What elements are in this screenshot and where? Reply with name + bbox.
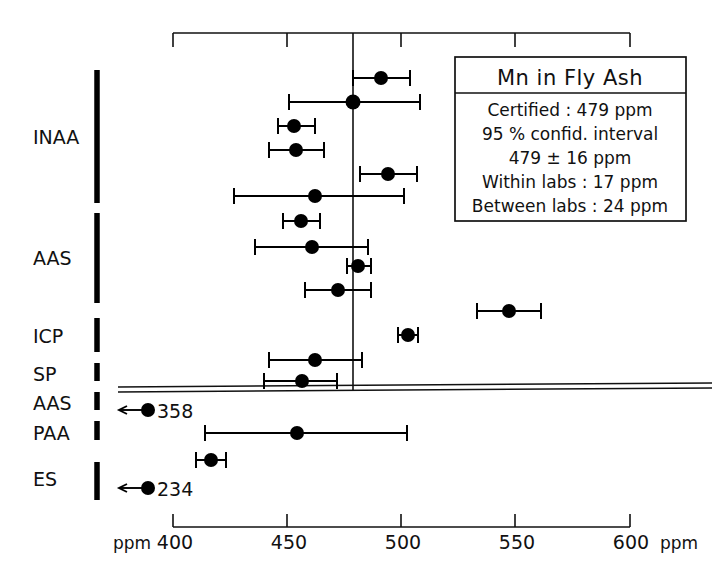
- data-point-value-label: 234: [157, 478, 193, 500]
- data-row: [283, 213, 320, 229]
- x-axis-unit-left: ppm: [113, 533, 151, 553]
- group-labels: INAA AAS ICP SP AAS PAA ES: [33, 126, 79, 490]
- data-point: [346, 95, 361, 110]
- axis-break: [118, 383, 712, 392]
- legend-line-confidence-interval: 95 % confid. interval: [482, 124, 658, 144]
- data-row: [398, 327, 418, 343]
- chart-svg: INAA AAS ICP SP AAS PAA ES: [0, 0, 712, 579]
- data-row: [305, 282, 371, 298]
- legend-line-between-labs: Between labs : 24 ppm: [472, 196, 668, 216]
- data-row: [205, 425, 407, 441]
- axis-break-line-lower: [118, 388, 712, 392]
- data-point: [141, 403, 155, 417]
- data-point: [502, 304, 516, 318]
- data-row: [347, 258, 371, 274]
- group-label-sp: SP: [33, 363, 57, 385]
- x-tick-label-550: 550: [499, 531, 535, 553]
- data-row: [234, 188, 404, 204]
- x-tick-label-450: 450: [271, 531, 307, 553]
- group-label-paa: PAA: [33, 422, 70, 444]
- data-row-offscale: 358: [119, 400, 193, 422]
- data-point-value-label: 358: [157, 400, 193, 422]
- data-row: [196, 452, 226, 468]
- series-paa: [205, 425, 407, 441]
- group-label-inaa: INAA: [33, 126, 79, 148]
- data-row: [477, 303, 541, 319]
- series-aas-2: 358: [119, 400, 193, 422]
- bottom-axis: 400 450 500 550 600 ppm ppm: [113, 514, 698, 553]
- data-row: [278, 118, 315, 134]
- data-point: [290, 426, 304, 440]
- data-point: [141, 481, 155, 495]
- group-label-icp: ICP: [33, 325, 63, 347]
- group-label-aas-2: AAS: [33, 392, 72, 414]
- data-point: [331, 283, 345, 297]
- legend-line-certified: Certified : 479 ppm: [487, 100, 652, 120]
- data-point: [204, 453, 218, 467]
- data-point: [401, 328, 415, 342]
- data-point: [287, 119, 301, 133]
- data-row: [289, 94, 420, 110]
- data-row: [269, 352, 362, 368]
- chart-figure: INAA AAS ICP SP AAS PAA ES: [0, 0, 712, 579]
- top-axis: [173, 33, 630, 47]
- x-tick-label-500: 500: [385, 531, 421, 553]
- x-tick-label-600: 600: [613, 531, 649, 553]
- legend-title: Mn in Fly Ash: [497, 66, 643, 90]
- data-point: [381, 167, 395, 181]
- series-es: 234: [119, 452, 226, 500]
- data-row-offscale: 234: [119, 478, 193, 500]
- x-axis-unit-right: ppm: [660, 533, 698, 553]
- group-label-aas-1: AAS: [33, 247, 72, 269]
- group-label-es: ES: [33, 468, 57, 490]
- series-icp: [269, 303, 541, 368]
- data-point: [295, 374, 309, 388]
- data-point: [294, 214, 308, 228]
- data-row: [255, 239, 368, 255]
- legend-line-within-labs: Within labs : 17 ppm: [482, 172, 658, 192]
- legend-line-interval-value: 479 ± 16 ppm: [509, 148, 632, 168]
- axis-break-line-upper: [118, 383, 712, 387]
- data-point: [308, 189, 322, 203]
- data-row: [353, 70, 410, 86]
- data-point: [308, 353, 322, 367]
- data-row: [269, 142, 324, 158]
- data-row: [360, 166, 417, 182]
- legend-box: Mn in Fly Ash Certified : 479 ppm 95 % c…: [455, 57, 686, 221]
- data-point: [374, 71, 388, 85]
- series-inaa: [234, 70, 420, 204]
- x-tick-label-400: 400: [157, 531, 193, 553]
- data-point: [289, 143, 303, 157]
- data-point: [351, 259, 365, 273]
- data-point: [305, 240, 319, 254]
